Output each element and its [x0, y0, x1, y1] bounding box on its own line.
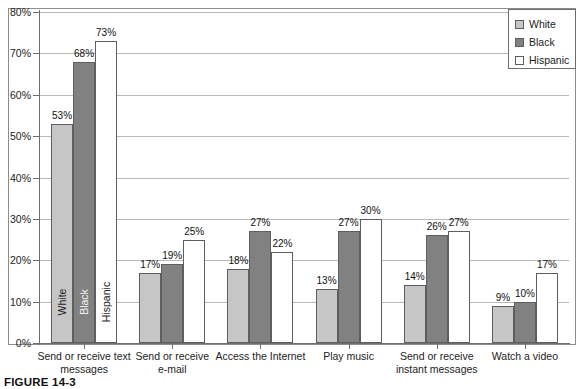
- y-axis-line: [39, 10, 40, 345]
- x-axis-tick: [260, 343, 261, 349]
- bar[interactable]: [161, 264, 183, 343]
- y-axis-tick-label: 10%: [0, 297, 31, 307]
- legend-swatch-hispanic: [515, 56, 524, 65]
- bar[interactable]: [271, 252, 293, 343]
- y-axis-tick-label: 80%: [0, 7, 31, 17]
- gridline: [40, 53, 569, 54]
- bar[interactable]: Hispanic: [95, 41, 117, 343]
- category-label-line: Watch a video: [475, 350, 575, 363]
- category-label-line: messages: [34, 363, 134, 376]
- gridline: [40, 219, 569, 220]
- y-axis-tick-label: 20%: [0, 255, 31, 265]
- bar-value-label: 73%: [89, 28, 123, 38]
- legend-item[interactable]: Black: [515, 33, 575, 51]
- bar-series-label: Black: [78, 289, 90, 315]
- legend-item-label: White: [529, 19, 556, 29]
- y-axis-tick-label: 70%: [0, 48, 31, 58]
- bar[interactable]: [514, 302, 536, 343]
- bar[interactable]: [426, 235, 448, 343]
- y-axis-tick-label: 0%: [0, 338, 31, 348]
- bar[interactable]: [139, 273, 161, 343]
- x-axis-category-label: Send or receive textmessages: [34, 350, 134, 375]
- x-axis-line: [37, 343, 570, 344]
- x-axis-category-label: Play music: [299, 350, 399, 363]
- category-label-line: Access the Internet: [210, 350, 310, 363]
- bar-value-label: 27%: [243, 218, 277, 228]
- legend-item[interactable]: White: [515, 15, 575, 33]
- bar[interactable]: [338, 231, 360, 343]
- legend: WhiteBlackHispanic: [508, 9, 576, 69]
- figure-caption: FIGURE 14-3: [4, 376, 76, 389]
- bar[interactable]: [448, 231, 470, 343]
- category-label-line: Send or receive text: [34, 350, 134, 363]
- bar[interactable]: [536, 273, 558, 343]
- gridline: [40, 178, 569, 179]
- bar[interactable]: [227, 269, 249, 343]
- y-axis-tick-label: 30%: [0, 214, 31, 224]
- x-axis-category-label: Access the Internet: [210, 350, 310, 363]
- x-axis-tick: [349, 343, 350, 349]
- bar-value-label: 22%: [265, 239, 299, 249]
- x-axis-tick: [525, 343, 526, 349]
- gridline: [40, 136, 569, 137]
- gridline: [40, 260, 569, 261]
- bar[interactable]: [492, 306, 514, 343]
- bar[interactable]: [316, 289, 338, 343]
- y-axis-tick-label: 40%: [0, 173, 31, 183]
- category-label-line: instant messages: [387, 363, 487, 376]
- category-label-line: e-mail: [122, 363, 222, 376]
- category-label-line: Send or receive: [122, 350, 222, 363]
- bar-series-label: Hispanic: [100, 282, 112, 322]
- legend-item-label: Hispanic: [529, 55, 569, 65]
- bar[interactable]: [360, 219, 382, 343]
- x-axis-tick: [172, 343, 173, 349]
- figure-container: 0%10%20%30%40%50%60%70%80% White53%Black…: [0, 0, 578, 389]
- x-axis-category-label: Send or receiveinstant messages: [387, 350, 487, 375]
- bar-value-label: 17%: [530, 260, 564, 270]
- x-axis-category-label: Watch a video: [475, 350, 575, 363]
- x-axis-category-label: Send or receivee-mail: [122, 350, 222, 375]
- bar[interactable]: White: [51, 124, 73, 343]
- category-label-line: Send or receive: [387, 350, 487, 363]
- bar[interactable]: [183, 240, 205, 343]
- category-label-line: Play music: [299, 350, 399, 363]
- bar[interactable]: Black: [73, 62, 95, 343]
- legend-item[interactable]: Hispanic: [515, 51, 575, 69]
- bar-value-label: 27%: [442, 218, 476, 228]
- gridline: [40, 95, 569, 96]
- bar-value-label: 30%: [354, 206, 388, 216]
- bar-value-label: 25%: [177, 227, 211, 237]
- bar-series-label: White: [56, 289, 68, 316]
- legend-item-label: Black: [529, 37, 555, 47]
- legend-swatch-white: [515, 20, 524, 29]
- bar[interactable]: [404, 285, 426, 343]
- y-axis-labels: 0%10%20%30%40%50%60%70%80%: [0, 0, 31, 389]
- x-axis-tick: [437, 343, 438, 349]
- x-axis-tick: [84, 343, 85, 349]
- y-axis-tick-label: 60%: [0, 90, 31, 100]
- gridline: [40, 12, 569, 13]
- y-axis-tick-label: 50%: [0, 131, 31, 141]
- legend-swatch-black: [515, 38, 524, 47]
